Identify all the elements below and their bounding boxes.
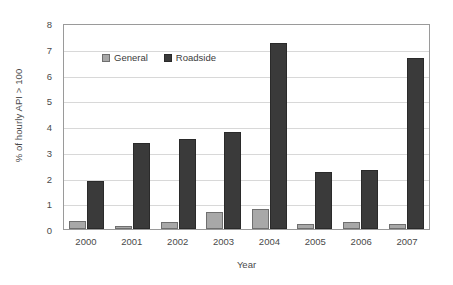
y-tick-label: 6 [47, 70, 52, 81]
y-axis-title-label: % of hourly API > 100 [14, 68, 25, 162]
x-tick-label: 2007 [384, 236, 430, 247]
bar-roadside-2007 [407, 58, 424, 229]
y-tick-label: 8 [47, 19, 52, 30]
x-tick-label: 2003 [201, 236, 247, 247]
bar-chart: % of hourly API > 100 012345678 GeneralR… [0, 0, 453, 285]
bar-general-2005 [297, 224, 314, 229]
bar-general-2004 [252, 209, 269, 229]
bar-roadside-2001 [133, 143, 150, 229]
bar-general-2003 [206, 212, 223, 230]
y-axis-title: % of hourly API > 100 [6, 0, 32, 230]
bar-general-2001 [115, 226, 132, 229]
y-axis-ticks: 012345678 [30, 24, 56, 230]
bar-general-2000 [69, 221, 86, 229]
bar-general-2007 [389, 224, 406, 229]
bar-roadside-2000 [87, 181, 104, 229]
bar-roadside-2002 [179, 139, 196, 229]
bar-group [292, 25, 338, 229]
y-tick-label: 7 [47, 44, 52, 55]
bar-group [383, 25, 429, 229]
legend-label: Roadside [176, 52, 216, 63]
x-tick-label: 2005 [292, 236, 338, 247]
x-tick-label: 2001 [109, 236, 155, 247]
legend-item-roadside: Roadside [164, 52, 216, 63]
legend-item-general: General [102, 52, 148, 63]
y-tick-label: 4 [47, 122, 52, 133]
x-tick-label: 2000 [63, 236, 109, 247]
y-tick-label: 3 [47, 147, 52, 158]
legend: GeneralRoadside [100, 51, 218, 64]
y-tick-label: 1 [47, 199, 52, 210]
y-tick-label: 2 [47, 173, 52, 184]
legend-swatch-icon [102, 54, 110, 62]
bar-group [247, 25, 293, 229]
y-tick-label: 5 [47, 96, 52, 107]
x-axis-title: Year [63, 259, 430, 270]
bar-roadside-2004 [270, 43, 287, 229]
legend-swatch-icon [164, 54, 172, 62]
bar-general-2006 [343, 222, 360, 229]
bar-roadside-2006 [361, 170, 378, 229]
x-tick-label: 2006 [338, 236, 384, 247]
legend-label: General [114, 52, 148, 63]
bar-roadside-2003 [224, 132, 241, 229]
bar-general-2002 [161, 222, 178, 229]
bar-roadside-2005 [315, 172, 332, 229]
y-tick-label: 0 [47, 225, 52, 236]
bar-group [338, 25, 384, 229]
x-axis-title-label: Year [237, 259, 256, 270]
x-tick-label: 2004 [247, 236, 293, 247]
x-tick-label: 2002 [155, 236, 201, 247]
x-axis-ticks: 20002001200220032004200520062007 [63, 236, 430, 247]
